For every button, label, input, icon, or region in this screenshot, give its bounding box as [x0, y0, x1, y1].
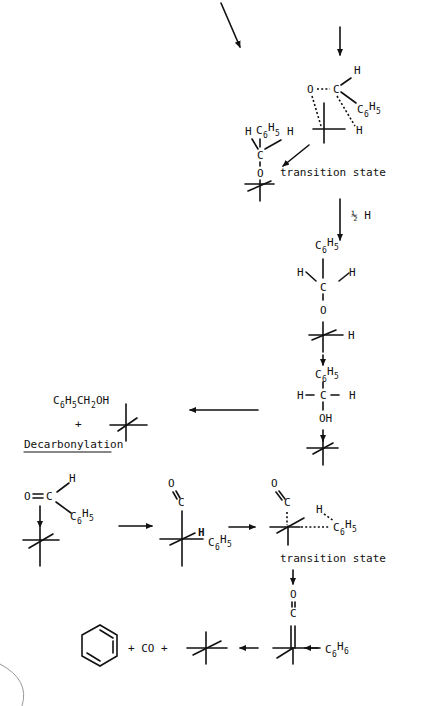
svg-text:+: +	[75, 418, 82, 431]
svg-text:C: C	[315, 239, 322, 252]
svg-text:C: C	[357, 103, 364, 116]
svg-text:C: C	[256, 124, 263, 137]
edge-arc	[0, 664, 24, 706]
svg-text:5: 5	[376, 107, 381, 116]
svg-text:H: H	[354, 64, 361, 77]
svg-text:H: H	[65, 394, 72, 407]
svg-text:H: H	[297, 266, 304, 279]
svg-text:6: 6	[344, 647, 349, 656]
svg-text:H: H	[316, 503, 323, 516]
arrow-top-left	[221, 3, 240, 47]
reaction-mechanism-diagram: O C H C6H5 H transition state H C6H5 H C…	[0, 0, 423, 706]
svg-text:C: C	[315, 368, 322, 381]
plus-co-label: + CO +	[128, 642, 168, 655]
alkoxide-metal-hydride: C6H5 H H C O H	[297, 236, 356, 352]
svg-text:5: 5	[352, 525, 357, 534]
svg-text:O: O	[320, 304, 327, 317]
svg-text:C: C	[333, 521, 340, 534]
svg-text:H: H	[327, 365, 334, 378]
svg-text:O: O	[24, 490, 31, 503]
svg-text:CH: CH	[77, 394, 90, 407]
svg-text:5: 5	[334, 243, 339, 252]
final-products: + CO +	[82, 625, 227, 666]
svg-text:H: H	[349, 266, 356, 279]
transition-state-1: O C H C6H5 H transition state	[280, 64, 386, 179]
svg-text:C: C	[284, 496, 291, 509]
svg-text:5: 5	[227, 540, 232, 549]
svg-text:C: C	[70, 510, 77, 523]
svg-text:H: H	[348, 329, 355, 342]
svg-text:C: C	[208, 536, 215, 549]
alkoxide-intermediate: H C6H5 H C O	[245, 121, 294, 201]
svg-text:5: 5	[334, 372, 339, 381]
transition-state-label-2: transition state	[280, 552, 386, 565]
svg-text:C: C	[178, 496, 185, 509]
svg-text:OH: OH	[319, 412, 332, 425]
svg-text:O: O	[271, 477, 278, 490]
svg-text:O: O	[290, 588, 297, 601]
svg-text:C: C	[290, 607, 297, 620]
alcohol-complex: C6H5 H C H OH	[297, 365, 356, 465]
svg-text:H: H	[369, 100, 376, 113]
svg-text:H: H	[245, 125, 252, 138]
half-h-label: ½ H	[351, 209, 371, 222]
svg-text:OH: OH	[96, 394, 109, 407]
svg-text:C: C	[320, 389, 327, 402]
svg-text:O: O	[168, 477, 175, 490]
svg-text:C: C	[46, 490, 53, 503]
svg-text:C: C	[257, 149, 264, 162]
svg-text:H: H	[327, 236, 334, 249]
svg-text:O: O	[307, 83, 314, 96]
transition-state-2: O C H C6H5 transition state	[270, 477, 386, 565]
metal-carbonyl-benzene: O C C6H6	[273, 588, 349, 664]
svg-text:C: C	[325, 643, 332, 656]
svg-text:H: H	[349, 389, 356, 402]
svg-text:H: H	[220, 533, 227, 546]
svg-text:H: H	[356, 124, 363, 137]
acyl-metal-hydride: O C H C6H5	[160, 477, 232, 566]
transition-state-label-1: transition state	[280, 166, 386, 179]
svg-text:H: H	[287, 125, 294, 138]
svg-text:5: 5	[89, 514, 94, 523]
svg-text:H: H	[198, 526, 205, 539]
svg-text:H: H	[69, 472, 76, 485]
svg-text:H: H	[82, 507, 89, 520]
arrow-ts1-to-alkoxide	[283, 145, 309, 166]
svg-text:C: C	[333, 83, 340, 96]
svg-text:5: 5	[275, 129, 280, 138]
svg-text:H: H	[345, 518, 352, 531]
svg-text:H: H	[337, 640, 344, 653]
svg-text:H: H	[297, 389, 304, 402]
svg-text:C: C	[53, 394, 60, 407]
svg-text:H: H	[268, 121, 275, 134]
aldehyde-coordination: O C H C6H5	[23, 472, 94, 566]
svg-text:O: O	[257, 167, 264, 180]
svg-text:C: C	[320, 281, 327, 294]
product-benzyl-alcohol: C6H5CH2OH + Decarbonylation	[24, 394, 147, 452]
decarbonylation-heading: Decarbonylation	[24, 438, 123, 451]
